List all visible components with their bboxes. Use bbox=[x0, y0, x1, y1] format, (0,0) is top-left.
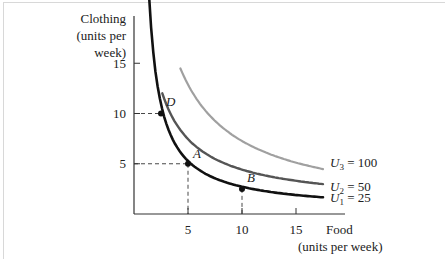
point-label-d: D bbox=[165, 94, 176, 109]
y-axis-label-line: (units per bbox=[77, 28, 127, 43]
y-tick-label: 5 bbox=[120, 156, 127, 171]
point-label-a: A bbox=[192, 146, 201, 161]
point-b bbox=[239, 186, 245, 192]
x-tick-label: 15 bbox=[290, 222, 303, 237]
curve-labels: U1 = 25U2 = 50U3 = 100 bbox=[330, 155, 377, 207]
y-tick-label: 15 bbox=[113, 56, 126, 71]
x-tick-label: 10 bbox=[236, 222, 249, 237]
y-tick-label: 10 bbox=[113, 106, 126, 121]
point-a bbox=[185, 161, 191, 167]
indifference-curve-chart: Clothing (units per week) 51015 51015 DA… bbox=[0, 0, 445, 259]
point-label-b: B bbox=[247, 170, 255, 185]
x-axis-label-line: Food bbox=[326, 222, 353, 237]
indifference-curve-u3 bbox=[180, 69, 323, 170]
x-ticks: 51015 bbox=[185, 208, 303, 237]
x-axis-label-line: (units per week) bbox=[298, 239, 382, 254]
x-tick-label: 5 bbox=[185, 222, 192, 237]
y-axis-label: Clothing (units per week) bbox=[77, 11, 127, 60]
indifference-curve-u2 bbox=[162, 93, 323, 184]
x-axis-label: Food (units per week) bbox=[298, 222, 382, 254]
y-axis-label-line: Clothing bbox=[80, 11, 126, 26]
point-d bbox=[158, 111, 164, 117]
curve-label-u2: U2 = 50 bbox=[330, 179, 371, 196]
curve-label-u3: U3 = 100 bbox=[330, 155, 377, 172]
bundle-points: DAB bbox=[158, 94, 255, 192]
